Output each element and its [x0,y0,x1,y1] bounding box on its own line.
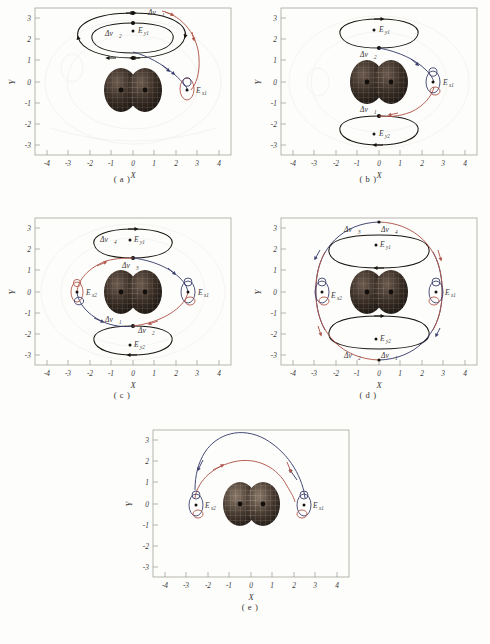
equilibrium-point-ey1-dot [373,29,376,32]
x-tick-4: 4 [335,581,339,590]
y-tick-m2: -2 [143,542,149,551]
y-tick-m1: -1 [25,99,31,108]
label-dv3: Δv [121,261,130,270]
y-tick-1: 1 [27,266,31,275]
panel-c: 3 2 1 0 -1 -2 -3 -4 -3 -2 -1 [2,208,242,403]
y-tick-1: 1 [273,266,277,275]
y-tick-0: 0 [145,500,149,509]
y-tick-3: 3 [26,224,31,233]
label-ey1: E [378,25,384,34]
label-dv1: Δv [104,315,113,324]
x-ticks: -4 -3 -2 -1 0 1 2 3 4 [290,360,467,378]
y-tick-1: 1 [273,56,277,65]
x-tick-0: 0 [249,581,253,590]
panel-c-plot: 3 2 1 0 -1 -2 -3 -4 -3 -2 -1 [2,208,242,403]
label-ex2: E [330,291,336,300]
periodic-orbit-lower [94,325,172,356]
label-ex1-sub: x1 [201,90,207,96]
y-axis-label: Y [253,288,263,294]
label-dv3-sub: 3 [358,229,361,235]
panel-a-plot: 3 2 1 0 -1 -2 -3 -4 -3 -2 [2,2,242,188]
label-ey2-sub: y2 [384,133,390,139]
x-tick-m4: -4 [290,159,296,168]
x-tick-m1: -1 [108,159,114,168]
label-ex1: E [312,501,318,510]
panel-e: 3 2 1 0 -1 -2 -3 -4 -3 -2 -1 [115,420,385,642]
central-body [104,270,162,314]
label-ey1-sub: y1 [139,239,145,245]
y-tick-1: 1 [27,56,31,65]
x-axis-label: X [247,592,254,602]
x-tick-2: 2 [292,581,296,590]
red-transfer-trajectory [162,11,199,90]
label-dv2-sub: 2 [119,33,122,39]
y-axis-label: Y [124,500,134,506]
label-dv1: Δv [359,105,368,114]
x-tick-3: 3 [440,159,445,168]
x-ticks: -4 -3 -2 -1 0 1 2 3 4 [44,360,221,378]
label-ey1: E [133,235,139,244]
label-dv3: Δv [343,225,352,234]
y-tick-2: 2 [27,35,31,44]
periodic-orbit-upper [340,19,418,50]
equilibrium-point-ex1-dot [187,291,190,294]
x-tick-0: 0 [131,369,135,378]
label-ex2: E [204,501,210,510]
central-body [350,270,408,314]
label-ex1-sub: x1 [318,505,324,511]
equilibrium-point-ey2-dot [375,338,378,341]
label-dv1-sub: 1 [395,355,398,361]
equilibrium-point-ey2-dot [373,133,376,136]
central-body [350,60,408,104]
equilibrium-point-ex2-dot [321,291,324,294]
x-tick-1: 1 [152,369,156,378]
periodic-orbit-lower [329,316,429,349]
label-ex1: E [195,86,201,95]
panel-b-caption: ( b ) [248,174,488,184]
y-tick-0: 0 [27,78,31,87]
y-ticks: 3 2 1 0 -1 -2 -3 [25,14,40,150]
x-tick-m2: -2 [333,369,339,378]
periodic-orbit-upper [329,235,429,268]
label-dv2-sub: 2 [374,54,377,60]
equilibrium-point-ey1-dot [132,30,135,33]
x-tick-m2: -2 [87,159,93,168]
x-tick-1: 1 [398,159,402,168]
x-tick-m3: -3 [183,581,189,590]
x-tick-3: 3 [312,581,317,590]
equilibrium-point-ex2-dot [76,291,79,294]
x-tick-4: 4 [217,369,221,378]
x-tick-4: 4 [217,159,221,168]
x-tick-m1: -1 [226,581,232,590]
label-dv4: Δv [380,225,389,234]
y-tick-0: 0 [273,288,277,297]
x-tick-2: 2 [174,369,178,378]
label-dv1-sub: 1 [119,319,122,325]
central-body [104,68,162,112]
x-axis-label: X [129,380,136,390]
label-dv1-sub: 1 [162,12,165,18]
panel-d: 3 2 1 0 -1 -2 -3 -4 -3 -2 -1 [248,208,488,403]
x-tick-m3: -3 [65,159,71,168]
x-tick-2: 2 [420,369,424,378]
x-tick-2: 2 [420,159,424,168]
y-tick-m1: -1 [143,521,149,530]
y-axis-label: Y [253,78,263,84]
x-tick-1: 1 [270,581,274,590]
label-ex1: E [442,78,448,87]
label-dv2-sub: 2 [358,355,361,361]
y-tick-m1: -1 [271,309,277,318]
y-tick-m3: -3 [25,141,31,150]
label-ey1-sub: y1 [384,29,390,35]
label-dv4: Δv [99,235,108,244]
label-ey1: E [379,240,385,249]
x-ticks: -4 -3 -2 -1 0 1 2 3 4 [162,572,339,590]
x-tick-0: 0 [377,159,381,168]
y-tick-m3: -3 [25,351,31,360]
y-tick-2: 2 [273,245,277,254]
panel-b-plot: 3 2 1 0 -1 -2 -3 -4 -3 -2 -1 [248,2,488,188]
panel-e-caption: ( e ) [115,602,385,612]
panel-d-caption: ( d ) [248,390,488,400]
x-tick-0: 0 [131,159,135,168]
y-tick-1: 1 [145,478,149,487]
